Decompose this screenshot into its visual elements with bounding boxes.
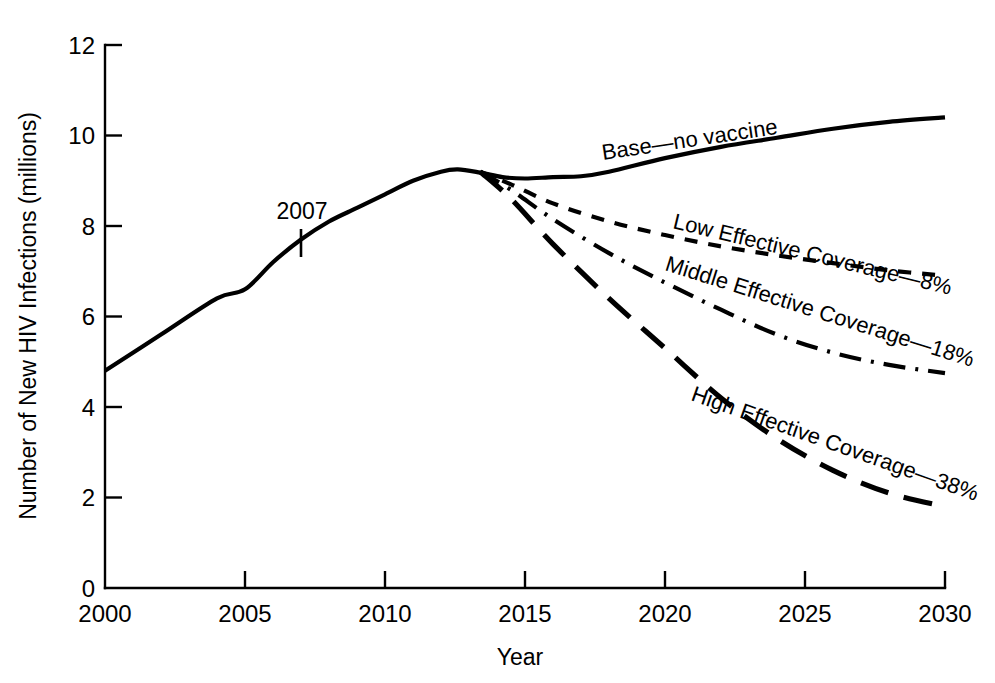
y-axis-title: Number of New HIV Infections (millions) (15, 112, 41, 520)
series-label-base: Base—no vaccine (600, 114, 779, 165)
x-tick-label-2015: 2015 (498, 600, 551, 627)
x-tick-label-2000: 2000 (78, 600, 131, 627)
y-tick-label-4: 4 (82, 394, 95, 421)
x-tick-labels: 2000 2005 2010 2015 2020 2025 2030 (78, 600, 971, 627)
y-tick-labels: 12 10 8 6 4 2 0 (68, 32, 95, 602)
x-axis-title: Year (497, 644, 544, 670)
series-label-high: High Effective Coverage—38% (688, 381, 982, 506)
x-tick-label-2005: 2005 (218, 600, 271, 627)
x-tick-label-2025: 2025 (778, 600, 831, 627)
x-tick-label-2010: 2010 (358, 600, 411, 627)
annotation-2007-label: 2007 (276, 198, 327, 224)
y-tick-label-2: 2 (82, 484, 95, 511)
chart-figure: 12 10 8 6 4 2 0 2000 2005 2010 2015 2020… (0, 0, 995, 683)
y-tick-label-8: 8 (82, 213, 95, 240)
x-tick-label-2030: 2030 (918, 600, 971, 627)
y-tick-label-10: 10 (68, 122, 95, 149)
x-tick-label-2020: 2020 (638, 600, 691, 627)
line-chart-canvas: 12 10 8 6 4 2 0 2000 2005 2010 2015 2020… (0, 0, 995, 683)
y-tick-label-0: 0 (82, 575, 95, 602)
y-tick-label-12: 12 (68, 32, 95, 59)
y-tick-label-6: 6 (82, 303, 95, 330)
